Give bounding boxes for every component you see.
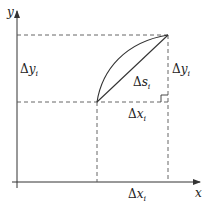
chord-delta-s bbox=[97, 35, 168, 102]
delta-y-right-label: Δyi bbox=[172, 62, 190, 78]
y-axis-label: y bbox=[6, 5, 14, 19]
delta-x-bottom-label: Δxi bbox=[128, 187, 146, 203]
x-axis-label: x bbox=[195, 186, 202, 200]
right-angle-marker bbox=[161, 95, 168, 102]
delta-y-left-label: Δyi bbox=[20, 62, 38, 78]
delta-s-label: Δsi bbox=[133, 75, 151, 91]
arc-length-diagram: y x Δyi Δyi Δsi Δxi Δxi bbox=[0, 0, 208, 209]
delta-x-middle-label: Δxi bbox=[128, 107, 146, 123]
